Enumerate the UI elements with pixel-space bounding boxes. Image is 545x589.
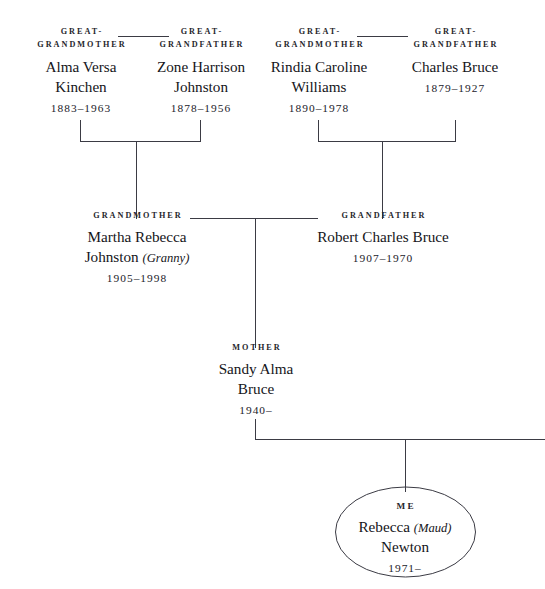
person-dates: 1907–1970: [300, 253, 466, 264]
person-name: Sandy Alma Bruce: [176, 359, 336, 399]
person-name-line1-wrap: Rebecca (Maud): [333, 517, 477, 537]
person-name-line1: Charles Bruce: [374, 57, 536, 77]
person-dates: 1971–: [333, 562, 477, 574]
person-node-grandmother[interactable]: GRANDMOTHER Martha Rebecca Johnston (Gra…: [56, 212, 218, 284]
person-name-line1: Martha Rebecca: [56, 227, 218, 247]
person-name: Rebecca (Maud) Newton: [333, 517, 477, 557]
person-nickname: (Maud): [414, 521, 452, 535]
person-dates: 1890–1978: [238, 103, 400, 114]
person-name-line1: Sandy Alma: [176, 359, 336, 379]
person-nickname: (Granny): [142, 251, 189, 265]
person-name: Charles Bruce: [374, 57, 536, 77]
person-dates: 1879–1927: [374, 83, 536, 94]
person-name-line2: Newton: [333, 537, 477, 557]
person-name: Robert Charles Bruce: [300, 227, 466, 247]
person-dates: 1940–: [176, 405, 336, 416]
person-node-grandfather[interactable]: GRANDFATHER Robert Charles Bruce 1907–19…: [300, 212, 466, 264]
role-label: ME: [333, 501, 477, 511]
person-name: Martha Rebecca Johnston (Granny): [56, 227, 218, 267]
role-label-line1: GREAT-: [374, 28, 536, 36]
person-name-line2-wrap: Johnston (Granny): [56, 247, 218, 267]
person-dates: 1905–1998: [56, 273, 218, 284]
role-label: GRANDMOTHER: [56, 212, 218, 220]
person-name-line2: Johnston: [85, 248, 139, 265]
person-name-line1: Rebecca: [358, 518, 409, 535]
role-label: MOTHER: [176, 344, 336, 352]
person-name-line1: Robert Charles Bruce: [300, 227, 466, 247]
person-name-line2: Bruce: [176, 379, 336, 399]
person-node-me[interactable]: ME Rebecca (Maud) Newton 1971–: [333, 501, 477, 574]
role-label: GRANDFATHER: [300, 212, 466, 220]
person-node-mother[interactable]: MOTHER Sandy Alma Bruce 1940–: [176, 344, 336, 416]
role-label-wrap: GREAT- GRANDFATHER: [374, 28, 536, 50]
role-label-line2: GRANDFATHER: [374, 41, 536, 49]
person-node-great-grandfather-right[interactable]: GREAT- GRANDFATHER Charles Bruce 1879–19…: [374, 28, 536, 94]
